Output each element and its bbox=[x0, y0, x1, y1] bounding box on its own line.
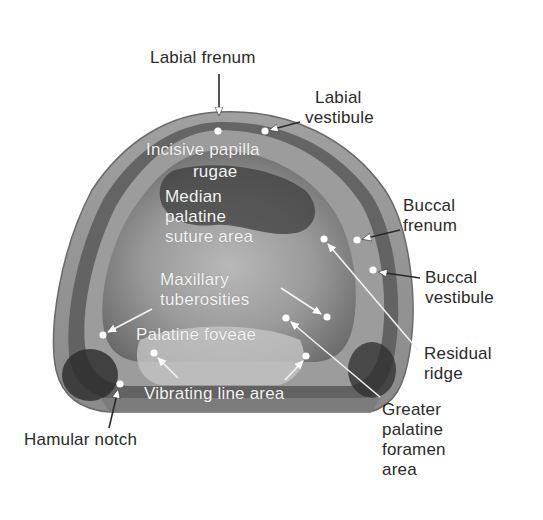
marker-left-tuberosity bbox=[99, 331, 106, 338]
label-maxillary-tuberosities: Maxillary tuberosities bbox=[160, 270, 249, 310]
marker-residual-ridge bbox=[320, 235, 327, 242]
label-rugae: rugae bbox=[193, 162, 237, 182]
left-hamular-shadow bbox=[62, 349, 118, 401]
diagram-stage: Labial frenum Labial vestibule Buccal fr… bbox=[0, 0, 543, 520]
marker-hamular-notch bbox=[116, 380, 123, 387]
marker-vibrating-line-right bbox=[302, 352, 309, 359]
label-buccal-frenum: Buccal frenum bbox=[403, 196, 457, 236]
label-greater-palatine-foramen: Greater palatine foramen area bbox=[382, 400, 446, 480]
marker-buccal-vestibule bbox=[369, 266, 376, 273]
label-palatine-foveae: Palatine foveae bbox=[136, 325, 256, 345]
label-residual-ridge: Residual ridge bbox=[424, 344, 492, 384]
marker-greater-palatine bbox=[282, 314, 289, 321]
marker-incisive-papilla bbox=[214, 127, 221, 134]
label-labial-frenum: Labial frenum bbox=[150, 48, 256, 68]
label-vibrating-line-area: Vibrating line area bbox=[144, 384, 285, 404]
marker-palatine-fovea bbox=[150, 349, 157, 356]
marker-buccal-frenum bbox=[353, 236, 360, 243]
marker-right-tuberosity bbox=[323, 313, 330, 320]
label-incisive-papilla: Incisive papilla bbox=[146, 140, 260, 160]
label-median-palatine-suture: Median palatine suture area bbox=[165, 187, 253, 247]
marker-labial-vestibule bbox=[261, 127, 268, 134]
label-hamular-notch: Hamular notch bbox=[24, 430, 137, 450]
label-buccal-vestibule: Buccal vestibule bbox=[425, 268, 494, 308]
label-labial-vestibule: Labial vestibule bbox=[315, 88, 374, 128]
